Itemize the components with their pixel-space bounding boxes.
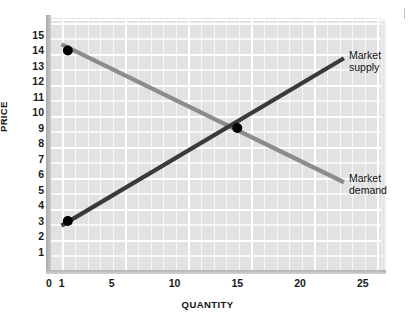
x-tick-1: 1: [50, 277, 74, 289]
page-edge-mark: [404, 8, 408, 19]
x-tick-25: 25: [351, 277, 375, 289]
market-demand-label: Market demand: [349, 172, 387, 196]
market-demand-label-line1: Market: [349, 172, 387, 184]
y-tick-2: 2: [22, 231, 44, 242]
y-tick-8: 8: [22, 138, 44, 149]
y-tick-11: 11: [22, 92, 44, 103]
y-tick-14: 14: [22, 45, 44, 56]
y-tick-10: 10: [22, 107, 44, 118]
market-supply-label-line2: supply: [349, 61, 381, 73]
y-tick-7: 7: [22, 154, 44, 165]
y-tick-3: 3: [22, 216, 44, 227]
market-supply-label: Market supply: [349, 49, 381, 73]
y-tick-9: 9: [22, 123, 44, 134]
x-axis-title: QUANTITY: [0, 299, 415, 310]
market-demand-line: [62, 44, 344, 182]
supply-endpoint-marker: [63, 216, 73, 226]
y-tick-13: 13: [22, 61, 44, 72]
equilibrium-marker: [232, 123, 242, 133]
y-axis-title: PRICE: [0, 101, 9, 132]
y-tick-5: 5: [22, 185, 44, 196]
supply-demand-chart: 123456789101112131415 01510152025 PRICE …: [0, 0, 415, 327]
market-supply-label-line1: Market: [349, 49, 381, 61]
demand-endpoint-marker: [63, 46, 73, 56]
y-tick-15: 15: [22, 30, 44, 41]
y-tick-1: 1: [22, 247, 44, 258]
x-axis-tick-labels: 01510152025: [0, 277, 415, 297]
market-supply-line: [62, 58, 344, 225]
x-tick-5: 5: [100, 277, 124, 289]
x-tick-10: 10: [163, 277, 187, 289]
y-tick-12: 12: [22, 76, 44, 87]
y-tick-4: 4: [22, 200, 44, 211]
x-tick-20: 20: [288, 277, 312, 289]
market-demand-label-line2: demand: [349, 184, 387, 196]
y-tick-6: 6: [22, 169, 44, 180]
x-tick-15: 15: [225, 277, 249, 289]
